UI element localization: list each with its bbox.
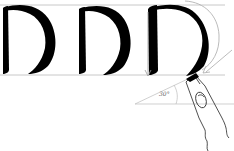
angle-label: 30° bbox=[159, 91, 170, 97]
letter-d-2 bbox=[79, 6, 131, 75]
angle-indicator bbox=[135, 76, 234, 104]
letter-d-3 bbox=[148, 5, 209, 76]
pen-nib bbox=[186, 75, 229, 151]
diagram-svg bbox=[0, 0, 234, 151]
calligraphy-diagram: 30° bbox=[0, 0, 234, 151]
letter-d-1 bbox=[3, 5, 56, 74]
